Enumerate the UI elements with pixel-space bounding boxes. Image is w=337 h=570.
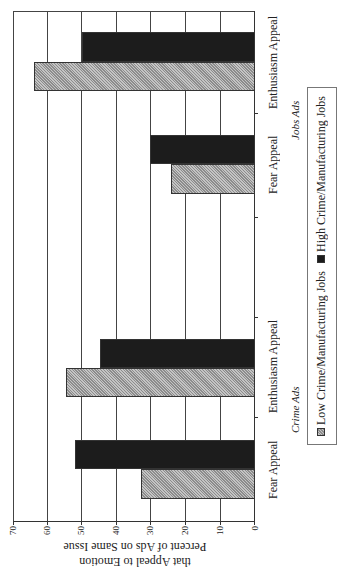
value-tick: [185, 521, 186, 525]
bar-jobs-enthusiasm-low: [34, 62, 255, 91]
legend: Low Crime/Manufacturing Jobs High Crime/…: [307, 87, 337, 445]
value-tick: [47, 521, 48, 525]
group-label-jobs: Jobs Ads: [289, 80, 301, 160]
bar-jobs-fear-high: [150, 135, 255, 164]
value-tick: [81, 521, 82, 525]
value-tick: [150, 521, 151, 525]
value-tick: [220, 521, 221, 525]
tick-label-10: 10: [215, 526, 225, 535]
legend-label-low: Low Crime/Manufacturing Jobs: [314, 271, 329, 425]
category-label-crime-fear: Fear Appeal: [266, 420, 281, 520]
bar-crime-enthusiasm-low: [66, 368, 255, 397]
bar-crime-fear-low: [141, 469, 255, 499]
legend-swatch-high: [318, 255, 326, 263]
value-axis-title-line2: Percent of Ads on Same Issue: [60, 539, 210, 554]
legend-swatch-low: [318, 428, 326, 436]
value-axis: [13, 521, 255, 522]
bar-jobs-fear-low: [171, 164, 255, 194]
category-tick: [254, 217, 258, 218]
legend-item-low: Low Crime/Manufacturing Jobs: [314, 271, 329, 436]
category-tick: [254, 113, 258, 114]
category-label-jobs-fear: Fear Appeal: [266, 113, 281, 217]
group-label-crime: Crime Ads: [289, 380, 301, 440]
value-axis-title-block: that Appeal to Emotion Percent of Ads on…: [60, 537, 210, 569]
tick-label-50: 50: [76, 526, 86, 535]
tick-label-0: 0: [250, 526, 260, 531]
bar-crime-enthusiasm-high: [100, 339, 255, 368]
bar-jobs-enthusiasm-high: [82, 32, 255, 62]
tick-label-60: 60: [42, 526, 52, 535]
value-axis-title-line1: that Appeal to Emotion: [60, 554, 210, 569]
value-tick: [254, 521, 255, 525]
value-tick: [13, 521, 14, 525]
tick-label-40: 40: [111, 526, 121, 535]
legend-items: Low Crime/Manufacturing Jobs High Crime/…: [314, 96, 329, 436]
legend-label-high: High Crime/Manufacturing Jobs: [314, 96, 329, 252]
category-label-jobs-enthusiasm: Enthusiasm Appeal: [266, 13, 281, 113]
category-tick: [254, 417, 258, 418]
bar-crime-fear-high: [75, 440, 255, 469]
value-tick: [116, 521, 117, 525]
legend-item-high: High Crime/Manufacturing Jobs: [314, 96, 329, 263]
category-label-crime-enthusiasm: Enthusiasm Appeal: [266, 317, 281, 417]
tick-label-30: 30: [145, 526, 155, 535]
tick-label-20: 20: [180, 526, 190, 535]
tick-label-70: 70: [8, 526, 18, 535]
category-tick: [254, 317, 258, 318]
